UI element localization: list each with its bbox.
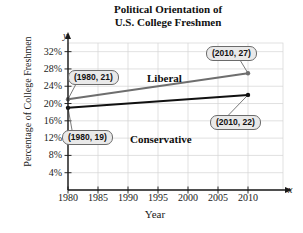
y-tick-label: 28% <box>32 63 62 74</box>
annotation-liberal-end: (2010, 27) <box>206 46 257 61</box>
annotation-conservative-end: (2010, 22) <box>210 115 261 130</box>
y-tick-label: 4% <box>32 167 62 178</box>
y-tick-label: 16% <box>32 115 62 126</box>
axis-lines <box>65 32 292 193</box>
x-tick-label: 2005 <box>201 192 235 203</box>
y-tick-label: 24% <box>32 80 62 91</box>
x-tick-label: 2000 <box>171 192 205 203</box>
annotation-conservative-start: (1980, 19) <box>62 130 113 145</box>
x-tick-label: 1980 <box>51 192 85 203</box>
chart-figure: Political Orientation of U.S. College Fr… <box>0 0 303 233</box>
y-tick-label: 8% <box>32 149 62 160</box>
x-tick-label: 1985 <box>81 192 115 203</box>
x-tick-label: 1995 <box>141 192 175 203</box>
y-tick-label: 20% <box>32 98 62 109</box>
y-tick-label: 32% <box>32 46 62 57</box>
series-label-liberal: Liberal <box>147 72 182 84</box>
x-tick-label: 1990 <box>111 192 145 203</box>
y-tick-label: 12% <box>32 132 62 143</box>
annotation-liberal-start: (1980, 21) <box>68 70 119 85</box>
x-tick-label: 2010 <box>231 192 265 203</box>
series-label-conservative: Conservative <box>130 133 192 145</box>
